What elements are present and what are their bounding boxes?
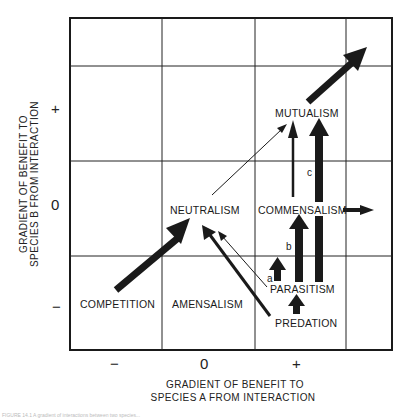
y-axis-label: GRADIENT OF BENEFIT TO SPECIES B FROM IN… [18, 101, 40, 267]
arrow-predation-to-parasitism [288, 294, 305, 314]
x-tick-zero: 0 [200, 355, 208, 372]
arrow-b-parasitism-to-commensalism [289, 214, 309, 282]
label-parasitism: PARASITISM [270, 283, 335, 295]
y-axis-ticks: + 0 − [51, 100, 61, 315]
arrow-label-c: c [307, 167, 312, 178]
x-axis-label-line1: GRADIENT OF BENEFIT TO [166, 379, 304, 390]
label-amensalism: AMENSALISM [172, 298, 243, 310]
arrow-commensalism-right [343, 205, 374, 215]
arrow-label-b: b [286, 241, 292, 252]
arrow-neutralism-to-mutualism [212, 124, 287, 195]
arrow-c-parasitism-to-mutualism [309, 118, 329, 282]
arrow-label-a: a [267, 273, 273, 284]
arrow-mutualism-upper-right [308, 47, 367, 102]
x-axis-label: GRADIENT OF BENEFIT TO SPECIES A FROM IN… [151, 379, 316, 403]
label-competition: COMPETITION [80, 298, 155, 310]
y-axis-label-line2: SPECIES B FROM INTERACTION [29, 101, 40, 267]
x-tick-minus: − [110, 355, 119, 372]
interaction-diagram: MUTUALISM NEUTRALISM COMMENSALISM PARASI… [0, 0, 411, 418]
label-mutualism: MUTUALISM [275, 107, 339, 119]
arrow-competition-to-neutralism [116, 218, 190, 290]
arrows [116, 47, 374, 316]
node-labels: MUTUALISM NEUTRALISM COMMENSALISM PARASI… [80, 107, 347, 329]
x-axis-ticks: − 0 + [110, 355, 301, 372]
label-predation: PREDATION [275, 317, 337, 329]
label-commensalism: COMMENSALISM [258, 204, 347, 216]
label-neutralism: NEUTRALISM [170, 204, 240, 216]
y-tick-zero: 0 [51, 196, 59, 213]
figure-caption: FIGURE 14.1 A gradient of interactions b… [2, 412, 140, 418]
x-axis-label-line2: SPECIES A FROM INTERACTION [151, 392, 316, 403]
arrow-commensalism-to-mutualism-thin [288, 120, 298, 197]
y-axis-label-line1: GRADIENT OF BENEFIT TO [18, 115, 29, 253]
y-tick-plus: + [51, 100, 60, 117]
y-tick-minus: − [52, 298, 61, 315]
x-tick-plus: + [292, 355, 301, 372]
